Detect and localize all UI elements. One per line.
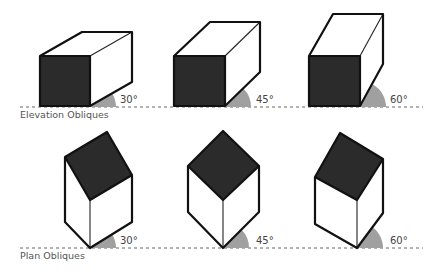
angle-label-30: 30° <box>120 235 138 246</box>
elevation-oblique-60: 60° <box>309 14 408 107</box>
front-face <box>174 56 225 106</box>
angle-label-45: 45° <box>256 94 274 105</box>
plan-obliques-label: Plan Obliques <box>20 250 85 261</box>
front-face <box>309 56 360 106</box>
plan-oblique-60: 60° <box>315 133 408 248</box>
elevation-oblique-30: 30° <box>40 32 138 107</box>
plan-oblique-30: 30° <box>65 132 138 248</box>
plan-oblique-45: 45° <box>188 131 274 248</box>
angle-label-45: 45° <box>256 235 274 246</box>
front-face <box>40 56 90 106</box>
elevation-oblique-45: 45° <box>174 22 274 107</box>
angle-label-60: 60° <box>390 235 408 246</box>
elevation-obliques-label: Elevation Obliques <box>20 109 109 120</box>
angle-label-60: 60° <box>390 94 408 105</box>
angle-label-30: 30° <box>120 94 138 105</box>
oblique-drawings-diagram: 30° 45° 60° Elevation Obliques 30° <box>0 0 445 275</box>
